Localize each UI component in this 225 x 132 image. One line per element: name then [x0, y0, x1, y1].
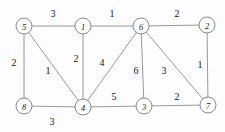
edge-weight-8-4: 3: [50, 116, 55, 127]
edge-weight-5-8: 2: [12, 57, 17, 68]
graph-canvas: 51628437 3122124631352: [0, 0, 225, 132]
graph-edge-2-7: [207, 33, 208, 97]
edge-weight-4-3: 5: [112, 91, 117, 102]
node-label-3: 3: [141, 102, 146, 112]
node-label-5: 5: [22, 22, 26, 32]
graph-node-6[interactable]: 6: [133, 18, 149, 34]
graph-node-7[interactable]: 7: [200, 97, 216, 113]
graph-edge-6-3: [141, 34, 143, 98]
edge-weight-6-2: 2: [175, 8, 180, 19]
edge-weight-5-1: 3: [51, 8, 56, 19]
graph-edge-6-7: [146, 32, 203, 99]
graph-node-4[interactable]: 4: [75, 99, 91, 115]
graph-edge-6-2: [149, 25, 199, 26]
graph-edge-8-4: [32, 106, 75, 107]
edge-weight-6-7: 3: [162, 65, 167, 76]
graph-node-8[interactable]: 8: [16, 98, 32, 114]
graph-edge-3-7: [152, 105, 200, 106]
graph-edge-4-3: [91, 106, 136, 107]
edge-weight-1-6: 1: [110, 8, 115, 19]
edge-weight-5-4: 1: [46, 65, 51, 76]
edge-weight-6-3: 6: [134, 65, 139, 76]
graph-node-5[interactable]: 5: [16, 18, 32, 34]
graph-node-2[interactable]: 2: [199, 17, 215, 33]
node-label-1: 1: [81, 22, 85, 32]
graph-node-1[interactable]: 1: [75, 18, 91, 34]
edge-weight-1-4: 2: [74, 53, 79, 64]
edge-weight-3-7: 2: [175, 91, 180, 102]
graph-edge-5-4: [29, 32, 79, 100]
edge-weight-6-4: 4: [100, 57, 105, 68]
edge-weight-2-7: 1: [198, 59, 203, 70]
graph-node-3[interactable]: 3: [136, 98, 152, 114]
graph-figure: 51628437 3122124631352: [0, 0, 225, 132]
